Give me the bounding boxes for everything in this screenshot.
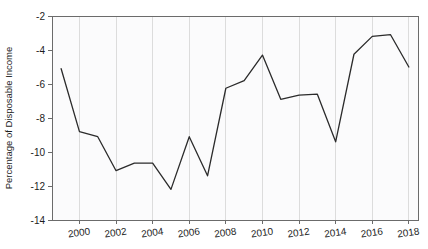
x-axis-ticks — [79, 220, 408, 224]
y-tick-label: -4 — [36, 45, 45, 56]
y-tick-label: -2 — [36, 11, 45, 22]
x-tick-label: 2000 — [67, 225, 91, 239]
y-tick-label: -10 — [31, 147, 46, 158]
y-tick-label: -8 — [36, 113, 45, 124]
x-tick-label: 2016 — [360, 225, 384, 239]
x-tick-label: 2012 — [287, 225, 311, 239]
x-tick-label: 2010 — [250, 225, 274, 239]
x-axis-tick-labels: 2000200220042006200820102012201420162018 — [67, 225, 420, 239]
y-axis-title: Percentage of Disposable Income — [3, 47, 14, 190]
y-axis-ticks — [48, 16, 52, 220]
plot-area-background — [52, 16, 418, 220]
x-tick-label: 2002 — [104, 225, 128, 239]
y-tick-label: -12 — [31, 181, 46, 192]
x-tick-label: 2018 — [397, 225, 421, 239]
x-tick-label: 2006 — [177, 225, 201, 239]
x-tick-label: 2008 — [214, 225, 238, 239]
x-tick-label: 2004 — [140, 225, 164, 239]
y-tick-label: -6 — [36, 79, 45, 90]
line-chart: -2-4-6-8-10-12-14 2000200220042006200820… — [0, 0, 428, 249]
y-axis-tick-labels: -2-4-6-8-10-12-14 — [31, 11, 46, 226]
x-tick-label: 2014 — [323, 225, 347, 239]
y-tick-label: -14 — [31, 215, 46, 226]
chart-container: -2-4-6-8-10-12-14 2000200220042006200820… — [0, 0, 428, 249]
